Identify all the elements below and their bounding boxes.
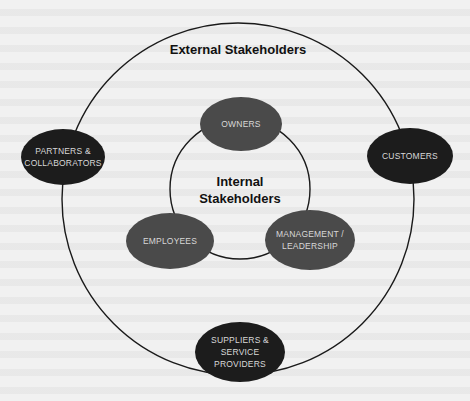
node-management-line-1: MANAGEMENT / [276,229,344,239]
node-partners-line-1: PARTNERS & [35,146,91,156]
node-suppliers-line-1: SUPPLIERS & [211,335,269,345]
node-owners: OWNERS [200,97,282,151]
internal-stakeholders-heading: Internal Stakeholders [199,174,281,206]
node-customers-line-1: CUSTOMERS [382,151,438,161]
node-partners-line-2: COLLABORATORS [24,158,102,168]
node-suppliers-line-2: SERVICE [221,347,260,357]
internal-heading-line-1: Internal [217,174,264,189]
node-suppliers-service-providers: SUPPLIERS & SERVICE PROVIDERS [195,322,285,382]
node-employees-line-1: EMPLOYEES [143,236,197,246]
node-employees: EMPLOYEES [126,213,214,269]
node-partners-collaborators: PARTNERS & COLLABORATORS [21,129,105,185]
node-owners-line-1: OWNERS [221,119,261,129]
node-customers: CUSTOMERS [367,128,453,184]
stakeholder-diagram: External Stakeholders Internal Stakehold… [0,0,470,401]
internal-heading-line-2: Stakeholders [199,191,281,206]
node-suppliers-line-3: PROVIDERS [214,359,266,369]
external-stakeholders-heading: External Stakeholders [170,42,307,57]
node-management-leadership: MANAGEMENT / LEADERSHIP [265,210,355,270]
node-management-line-2: LEADERSHIP [282,241,338,251]
